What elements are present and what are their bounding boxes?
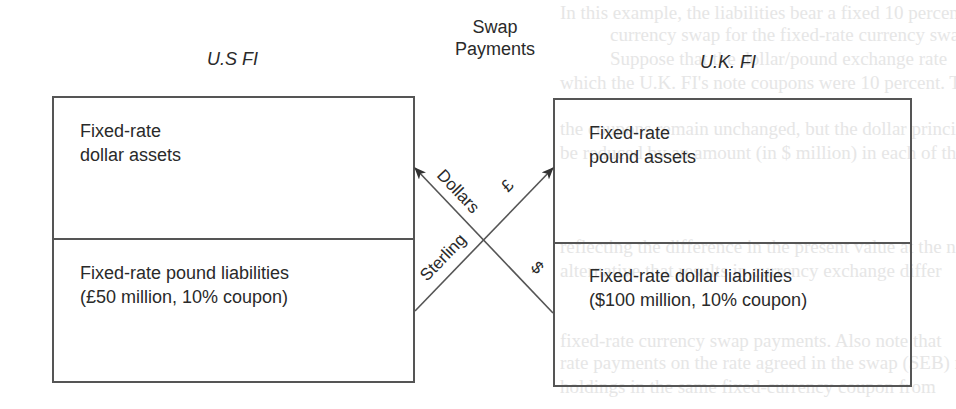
dollars-flow-label: Dollars	[433, 166, 483, 217]
sterling-flow-label: Sterling	[416, 230, 470, 285]
dollar-symbol-label: $	[527, 258, 548, 278]
swap-flow-arrows: Dollars Sterling £ $	[0, 0, 956, 409]
pound-symbol-label: £	[497, 175, 518, 195]
